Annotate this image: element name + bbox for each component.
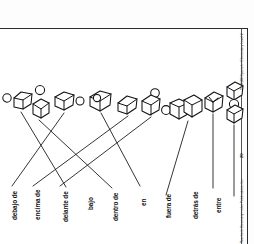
page-number: 20 xyxy=(239,153,244,158)
worksheet-page: debajo de encima de delante de bajo dent… xyxy=(0,0,254,244)
label-dentro-de[interactable]: dentro de xyxy=(112,193,119,221)
label-encima-de[interactable]: encima de xyxy=(34,190,41,220)
label-entre[interactable]: entre xyxy=(215,198,222,213)
label-en[interactable]: en xyxy=(140,199,147,206)
label-detras-de[interactable]: detrás de xyxy=(192,191,199,219)
label-fuera-de[interactable]: fuera de xyxy=(165,194,172,218)
label-delante-de[interactable]: delante de xyxy=(62,191,69,222)
worksheet-header-text: TX-0100 Spanish • Elementary Level 2 xyxy=(240,33,244,90)
label-debajo-de[interactable]: debajo de xyxy=(11,191,18,220)
worksheet-footer-text: Teacher's Discovery • nder Publications,… xyxy=(240,178,244,243)
label-bajo[interactable]: bajo xyxy=(87,197,94,210)
